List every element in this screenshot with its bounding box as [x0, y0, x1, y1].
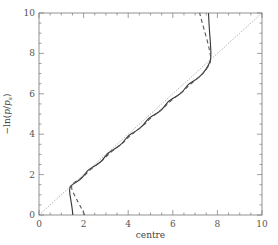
y-tick-label: 2: [29, 170, 35, 180]
chart-series: [39, 13, 262, 215]
series-solid-line: [70, 13, 211, 215]
x-tick-label: 10: [256, 219, 268, 229]
y-tick-label: 6: [29, 89, 35, 99]
x-tick-label: 4: [125, 219, 131, 229]
y-axis-label: −ln(p/ps): [2, 94, 13, 135]
y-tick-label: 10: [24, 8, 36, 18]
x-axis-label: centre: [136, 230, 165, 240]
x-tick-label: 0: [36, 219, 42, 229]
y-label-suffix: ): [2, 94, 12, 98]
y-tick-label: 4: [29, 129, 35, 139]
y-label-prefix: −ln(: [2, 115, 12, 135]
y-tick-label: 0: [29, 210, 35, 220]
series-dashed-line: [72, 13, 211, 215]
y-tick-label: 8: [29, 48, 35, 58]
x-tick-label: 2: [81, 219, 87, 229]
chart: 02468100246810 centre −ln(p/ps): [0, 0, 278, 245]
x-tick-label: 8: [215, 219, 221, 229]
x-tick-label: 6: [170, 219, 176, 229]
series-diagonal-line: [39, 13, 262, 215]
tick-labels: 02468100246810: [24, 8, 268, 229]
